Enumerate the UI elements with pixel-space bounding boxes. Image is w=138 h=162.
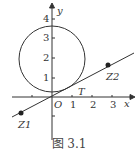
y-tick-1: 1 [43,72,49,83]
t-label: T [78,86,86,97]
x-label: x [124,98,130,109]
point-z1 [19,111,24,116]
z1-label: Z1 [17,119,31,130]
y-tick-2: 2 [43,52,49,63]
figure-caption: 图 3.1 [0,134,138,151]
x-tick-3: 3 [110,99,116,110]
x-tick-2: 2 [90,99,96,110]
y-arrow-icon [50,3,55,8]
y-tick-4: 4 [43,13,49,24]
x-tick-1: 1 [70,99,76,110]
point-z2 [106,63,111,68]
y-label: y [56,5,63,16]
x-arrow-icon [130,95,135,100]
y-tick-3: 3 [43,32,49,43]
z2-label: Z2 [105,71,119,82]
origin-label: O [54,99,62,110]
